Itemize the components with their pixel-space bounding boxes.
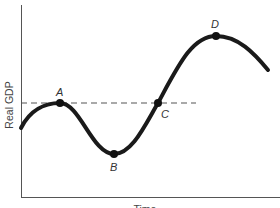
point-c-marker <box>154 99 162 107</box>
point-a-marker <box>56 99 64 107</box>
point-d-label: D <box>211 18 219 30</box>
point-b-marker <box>110 150 118 158</box>
point-b-label: B <box>110 161 117 173</box>
point-d-marker <box>212 32 220 40</box>
point-c-label: C <box>161 108 169 120</box>
business-cycle-chart: A B C D Real GDP Time <box>0 0 280 208</box>
y-axis-label: Real GDP <box>3 81 15 128</box>
x-axis-label: Time <box>134 203 157 208</box>
point-a-label: A <box>55 86 63 98</box>
